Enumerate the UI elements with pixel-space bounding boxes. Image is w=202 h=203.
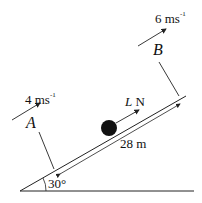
force-label: L N	[125, 95, 145, 108]
point-a-pointer	[39, 132, 54, 169]
incline-line	[20, 96, 186, 191]
force-arrow	[116, 110, 139, 123]
speed-b-label: 6 ms-1	[155, 12, 186, 25]
point-b-label: B	[153, 42, 163, 58]
speed-a-label: 4 ms-1	[25, 93, 56, 106]
angle-arc	[43, 178, 46, 191]
point-b-pointer	[159, 62, 179, 96]
inclined-plane-diagram: 6 ms-1 B 4 ms-1 A L N 28 m 30°	[0, 0, 202, 203]
point-a-label: A	[26, 115, 36, 131]
ball	[101, 120, 117, 136]
distance-label: 28 m	[120, 137, 146, 150]
angle-label: 30°	[48, 177, 66, 190]
